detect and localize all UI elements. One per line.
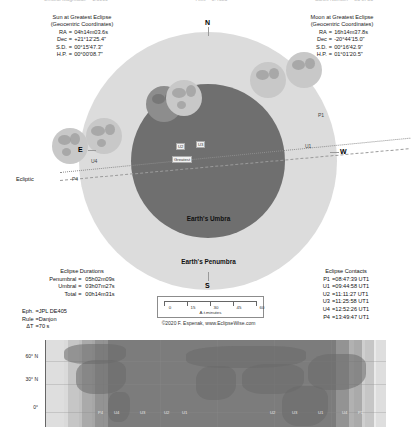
contact-marker-u4: U4 bbox=[91, 158, 97, 164]
penumbra-label: Earth's Penumbra bbox=[0, 258, 417, 265]
sun-row-key-3: H.P. bbox=[56, 51, 69, 58]
table-row: RA = 16h14m37.8s bbox=[316, 29, 368, 36]
map-ytick-0: 60° N bbox=[14, 353, 38, 359]
table-row: P1 = 08:47:39 UT1 bbox=[323, 276, 369, 284]
duration-val-2: 00h14m31s bbox=[85, 291, 148, 299]
map-contact-u3-east: U3 bbox=[292, 410, 297, 415]
contact-marker-p1: P1 bbox=[318, 112, 324, 118]
greatest-eclipse-marker: Greatest bbox=[172, 156, 192, 163]
south-tick-mark bbox=[208, 272, 209, 281]
eclipse-durations-block: Eclipse Durations Penumbral = 05h02m09s … bbox=[16, 268, 148, 298]
table-row: H.P. = 01°01'20.5" bbox=[316, 51, 368, 58]
table-row: Umbral = 03h07m27s bbox=[16, 283, 148, 291]
duration-key-2: Total bbox=[16, 291, 78, 299]
durations-table: Penumbral = 05h02m09s Umbral = 03h07m27s… bbox=[16, 276, 148, 299]
direction-south: S bbox=[205, 282, 210, 289]
sun-row-val-1: +21°12'25.4" bbox=[74, 36, 108, 43]
sun-coordinates-table: RA = 04h14m03.6s Dec = +21°12'25.4" S.D.… bbox=[56, 29, 108, 59]
table-row: U4 = 12:52:26 UT1 bbox=[323, 306, 369, 314]
contact-key-2: U2 bbox=[323, 291, 332, 299]
contact-marker-u2: U2 bbox=[176, 143, 185, 150]
top-cut-row: Umbral Magnitude = 1.0000 Axis = 0.4385 … bbox=[0, 0, 417, 8]
moon-position-u1 bbox=[250, 62, 286, 98]
moon-subtitle: (Geocentric Coordinates) bbox=[272, 21, 412, 28]
contact-marker-u3: U3 bbox=[196, 141, 205, 148]
sun-row-val-0: 04h14m03.6s bbox=[74, 29, 108, 36]
map-contact-u4: U4 bbox=[114, 410, 119, 415]
sun-row-key-1: Dec bbox=[56, 36, 69, 43]
table-row: RA = 04h14m03.6s bbox=[56, 29, 108, 36]
moon-position-u4 bbox=[86, 118, 122, 154]
sun-subtitle: (Geocentric Coordinates) bbox=[16, 21, 148, 28]
moon-row-val-3: 01°01'20.5" bbox=[334, 51, 368, 58]
map-contact-u2: U2 bbox=[164, 410, 169, 415]
moon-coordinates-block: Moon at Greatest Eclipse (Geocentric Coo… bbox=[272, 14, 412, 58]
contact-val-4: 12:52:26 UT1 bbox=[335, 306, 369, 314]
contact-key-1: U1 bbox=[323, 283, 332, 291]
sun-row-val-3: 00°00'08.7" bbox=[74, 51, 108, 58]
duration-val-1: 03h07m27s bbox=[85, 283, 148, 291]
moon-title: Moon at Greatest Eclipse bbox=[272, 14, 412, 21]
sun-title: Sun at Greatest Eclipse bbox=[16, 14, 148, 21]
map-ytick-1: 30° N bbox=[14, 376, 38, 382]
east-tick-mark bbox=[88, 150, 96, 151]
moon-row-key-3: H.P. bbox=[316, 51, 329, 58]
moon-row-key-1: Dec bbox=[316, 36, 329, 43]
contact-val-3: 11:25:58 UT1 bbox=[335, 298, 369, 306]
direction-east: E bbox=[78, 146, 83, 153]
contact-key-4: U4 bbox=[323, 306, 332, 314]
moon-position-greatest bbox=[166, 80, 202, 116]
ecliptic-label: Ecliptic bbox=[16, 176, 34, 182]
table-row: U3 = 11:25:58 UT1 bbox=[323, 298, 369, 306]
eclipse-contacts-block: Eclipse Contacts P1 = 08:47:39 UT1 U1 = … bbox=[282, 268, 410, 321]
top-cut-item-2: Saros Number = 85 of 55 bbox=[315, 0, 373, 2]
sun-row-val-2: 00°15'47.3" bbox=[74, 44, 108, 51]
duration-eq-2: = bbox=[78, 291, 85, 299]
west-tick-mark bbox=[330, 152, 339, 153]
duration-eq-0: = bbox=[78, 276, 85, 284]
table-row: Penumbral = 05h02m09s bbox=[16, 276, 148, 284]
map-contact-p4: P4 bbox=[98, 410, 103, 415]
eph-key-0: Eph. bbox=[22, 308, 36, 316]
sun-row-key-2: S.D. bbox=[56, 44, 69, 51]
contact-val-2: 11:11:27 UT1 bbox=[335, 291, 369, 299]
direction-north: N bbox=[205, 19, 210, 26]
table-row: Dec = +21°12'25.4" bbox=[56, 36, 108, 43]
table-row: S.D. = 00°15'47.3" bbox=[56, 44, 108, 51]
copyright-text: ©2020 F. Espenak, www.EclipseWise.com bbox=[0, 320, 417, 326]
map-contact-u4-east: U4 bbox=[342, 410, 347, 415]
world-visibility-map: Latitude 60° N 30° N 0° P4 U4 U3 U2 U1 U… bbox=[0, 332, 417, 427]
map-ytick-2: 0° bbox=[14, 404, 38, 410]
moon-coordinates-table: RA = 16h14m37.8s Dec = -20°44'15.0" S.D.… bbox=[316, 29, 368, 59]
contacts-title: Eclipse Contacts bbox=[282, 268, 410, 276]
contact-key-3: U3 bbox=[323, 298, 332, 306]
table-row: S.D. = 00°16'42.9" bbox=[316, 44, 368, 51]
contact-key-0: P1 bbox=[323, 276, 332, 284]
top-cut-item-0: Umbral Magnitude = 1.0000 bbox=[44, 0, 108, 2]
contacts-table: P1 = 08:47:39 UT1 U1 = 09:44:58 UT1 U2 =… bbox=[323, 276, 369, 322]
moon-row-key-2: S.D. bbox=[316, 44, 329, 51]
map-contact-u1: U1 bbox=[182, 410, 187, 415]
contact-marker-p4: P4 bbox=[72, 176, 78, 182]
table-row: Eph. = JPL DE405 bbox=[22, 308, 67, 316]
contact-val-0: 08:47:39 UT1 bbox=[335, 276, 369, 284]
map-contact-p1: P1 bbox=[358, 410, 363, 415]
map-contact-u2-east: U2 bbox=[270, 410, 275, 415]
top-cut-item-1: Axis = 0.4385 bbox=[196, 0, 228, 2]
map-contact-u3: U3 bbox=[140, 410, 145, 415]
table-row: U1 = 09:44:58 UT1 bbox=[323, 283, 369, 291]
contact-marker-u1: U1 bbox=[305, 143, 311, 149]
umbra-label: Earth's Umbra bbox=[0, 215, 417, 222]
moon-row-val-2: 00°16'42.9" bbox=[334, 44, 368, 51]
duration-val-0: 05h02m09s bbox=[85, 276, 148, 284]
north-tick-mark bbox=[208, 27, 209, 36]
durations-title: Eclipse Durations bbox=[16, 268, 148, 276]
moon-position-p1 bbox=[286, 52, 322, 88]
contact-val-1: 09:44:58 UT1 bbox=[335, 283, 369, 291]
table-row: U2 = 11:11:27 UT1 bbox=[323, 291, 369, 299]
sun-row-key-0: RA bbox=[56, 29, 69, 36]
table-row: H.P. = 00°00'08.7" bbox=[56, 51, 108, 58]
sun-coordinates-block: Sun at Greatest Eclipse (Geocentric Coor… bbox=[16, 14, 148, 58]
moon-row-val-0: 16h14m37.8s bbox=[334, 29, 368, 36]
eph-val-0: JPL DE405 bbox=[39, 308, 67, 316]
